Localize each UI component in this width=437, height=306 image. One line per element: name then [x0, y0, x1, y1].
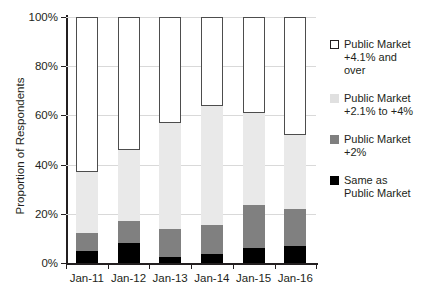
x-tick-5	[275, 264, 276, 269]
segment-public-market-2-1-to-4	[118, 150, 140, 221]
open-square-icon	[330, 40, 339, 49]
chart-legend: Public Market +4.1% and over Public Mark…	[330, 38, 437, 215]
segment-public-market-4-1-and-over	[118, 17, 140, 150]
stacked-bar-chart: Proportion of Respondents 100% 80% 60% 4…	[0, 0, 437, 306]
gridline-20	[66, 214, 316, 215]
x-tick-label-jan-15: Jan-15	[236, 272, 271, 284]
segment-public-market-2-1-to-4	[201, 106, 223, 225]
segment-public-market-2	[76, 233, 98, 250]
segment-public-market-2	[284, 209, 306, 246]
x-tick-label-jan-16: Jan-16	[278, 272, 313, 284]
x-tick-4	[233, 264, 234, 269]
segment-public-market-2-1-to-4	[76, 172, 98, 234]
x-tick-3	[191, 264, 192, 269]
x-tick-1	[108, 264, 109, 269]
y-tick-100	[61, 17, 66, 18]
y-tick-label-100: 100%	[29, 11, 58, 23]
legend-item-public-market-2[interactable]: Public Market +2%	[330, 133, 437, 159]
legend-label: Public Market +4.1% and over	[344, 38, 437, 77]
x-tick-label-jan-12: Jan-12	[111, 272, 146, 284]
segment-same-as-public-market	[76, 251, 98, 263]
segment-same-as-public-market	[201, 254, 223, 263]
y-axis-title: Proportion of Respondents	[14, 46, 26, 246]
y-tick-label-40: 40%	[35, 159, 58, 171]
y-tick-label-80: 80%	[35, 60, 58, 72]
y-tick-40	[61, 165, 66, 166]
segment-public-market-2	[243, 205, 265, 248]
segment-same-as-public-market	[159, 257, 181, 263]
x-tick-label-jan-14: Jan-14	[194, 272, 229, 284]
segment-same-as-public-market	[243, 248, 265, 263]
y-tick-60	[61, 115, 66, 116]
segment-same-as-public-market	[284, 246, 306, 263]
segment-public-market-2-1-to-4	[243, 113, 265, 205]
segment-public-market-2-1-to-4	[284, 135, 306, 209]
segment-public-market-2	[201, 225, 223, 255]
light-gray-square-icon	[330, 94, 339, 103]
gridline-60	[66, 115, 316, 116]
x-tick-6	[316, 264, 317, 269]
segment-public-market-4-1-and-over	[243, 17, 265, 113]
segment-public-market-4-1-and-over	[284, 17, 306, 135]
black-square-icon	[330, 176, 339, 185]
gridline-100	[66, 17, 316, 18]
gridline-40	[66, 165, 316, 166]
mid-gray-square-icon	[330, 135, 339, 144]
x-tick-0	[66, 264, 67, 269]
segment-public-market-2	[118, 221, 140, 243]
y-tick-label-20: 20%	[35, 208, 58, 220]
y-tick-80	[61, 66, 66, 67]
segment-public-market-4-1-and-over	[201, 17, 223, 106]
x-tick-label-jan-13: Jan-13	[153, 272, 188, 284]
legend-item-public-market-2-1-to-4[interactable]: Public Market +2.1% to +4%	[330, 92, 437, 118]
plot-area: 100% 80% 60% 40% 20% 0% Jan-11 Jan-12 Ja…	[66, 17, 316, 263]
y-axis-line	[66, 15, 68, 265]
legend-label: Public Market +2.1% to +4%	[344, 92, 437, 118]
segment-public-market-4-1-and-over	[159, 17, 181, 123]
segment-same-as-public-market	[118, 243, 140, 263]
legend-item-same-as-public-market[interactable]: Same as Public Market	[330, 174, 437, 200]
x-tick-label-jan-11: Jan-11	[70, 272, 104, 284]
segment-public-market-2-1-to-4	[159, 123, 181, 229]
segment-public-market-2	[159, 229, 181, 257]
x-tick-2	[149, 264, 150, 269]
gridline-80	[66, 66, 316, 67]
y-tick-label-0: 0%	[41, 257, 58, 269]
y-tick-label-60: 60%	[35, 109, 58, 121]
segment-public-market-4-1-and-over	[76, 17, 98, 172]
y-tick-20	[61, 214, 66, 215]
legend-label: Public Market +2%	[344, 133, 437, 159]
legend-item-public-market-4-1-and-over[interactable]: Public Market +4.1% and over	[330, 38, 437, 77]
legend-label: Same as Public Market	[344, 174, 437, 200]
